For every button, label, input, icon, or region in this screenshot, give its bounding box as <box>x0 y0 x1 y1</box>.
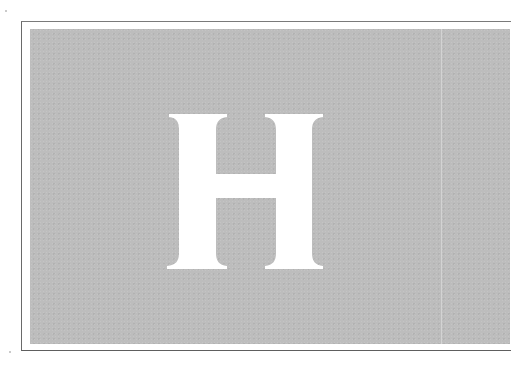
scan-speck <box>5 10 7 12</box>
drop-cap-h-glyph <box>167 114 325 269</box>
drop-cap-panel: H <box>30 29 510 344</box>
drop-cap-letter: H <box>167 114 325 269</box>
scan-speck <box>9 351 11 353</box>
scan-fold-line <box>441 29 442 344</box>
